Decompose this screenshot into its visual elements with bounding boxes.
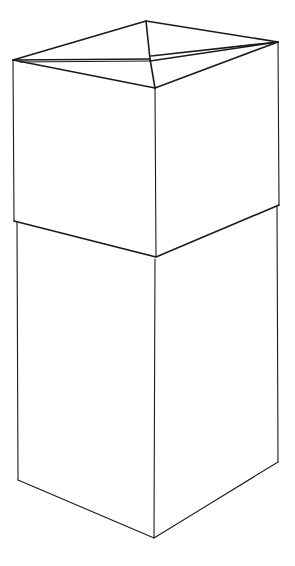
top-box-right-edge: [278, 42, 279, 205]
top-box-left-edge: [13, 60, 14, 221]
seam-line: [14, 205, 279, 257]
column-diagram: [0, 0, 295, 566]
lid-back-right-edge: [146, 21, 278, 42]
top-box-front-edge: [155, 88, 156, 257]
lid-fold-left: [13, 59, 150, 60]
stacked-boxes-drawing: [0, 0, 295, 566]
top-box: [13, 42, 279, 257]
bottom-box: [17, 206, 278, 538]
lid-fold-front: [150, 59, 155, 88]
lid-fold-back: [146, 21, 150, 59]
lid-front-left-edge: [13, 60, 155, 88]
bottom-box-right-edge: [277, 206, 278, 462]
base-line: [18, 462, 278, 538]
bottom-box-left-edge: [17, 222, 18, 480]
lid-fold-right-lower: [150, 42, 278, 61]
bottom-box-front-edge: [154, 259, 155, 538]
lid: [13, 21, 278, 88]
lid-back-left-edge: [13, 21, 146, 60]
lid-fold-left-inner: [20, 61, 150, 62]
